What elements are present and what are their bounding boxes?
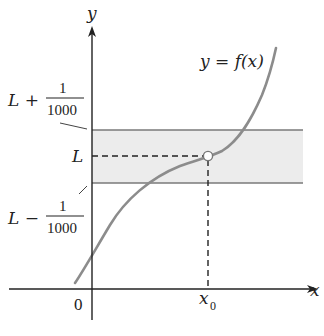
x0-label: x 0 (199, 288, 216, 313)
svg-text:L +: L + (7, 90, 39, 110)
svg-text:L −: L − (7, 208, 39, 228)
svg-text:1: 1 (59, 198, 67, 214)
y-axis-label: y (86, 3, 97, 23)
upper-bound-pointer (60, 123, 87, 129)
svg-text:0: 0 (210, 299, 216, 313)
svg-text:1000: 1000 (47, 220, 77, 236)
svg-text:1000: 1000 (47, 102, 77, 118)
curve-label: y = f(x) (199, 51, 264, 71)
lower-bound-pointer (79, 186, 87, 194)
limit-diagram: y x 0 x 0 y = f(x) L L + 1 1000 L − 1 10… (0, 0, 324, 336)
limit-point-open-circle (203, 151, 212, 160)
limit-label: L (71, 146, 83, 166)
origin-label: 0 (74, 295, 83, 314)
svg-text:1: 1 (59, 80, 67, 96)
upper-bound-label: L + 1 1000 (7, 80, 84, 118)
svg-text:x: x (199, 288, 209, 308)
lower-bound-label: L − 1 1000 (7, 198, 84, 236)
x-axis-label: x (310, 280, 320, 300)
svg-text:y = f(x): y = f(x) (199, 51, 264, 71)
